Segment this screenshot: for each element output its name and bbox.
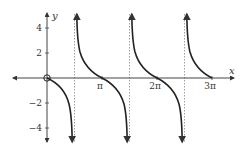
y-tick-label-4: 4 bbox=[36, 23, 42, 33]
y-tick-label-neg2: −2 bbox=[29, 98, 42, 108]
branch-0 bbox=[47, 78, 72, 142]
x-tick-label-3pi: 3π bbox=[204, 81, 216, 91]
y-axis-label: y bbox=[51, 10, 58, 21]
x-tick-label-pi: π bbox=[97, 81, 103, 91]
x-axis-label: x bbox=[229, 65, 235, 76]
branch-3 bbox=[187, 14, 212, 78]
tangent-plot: y x 4 2 −2 −4 π 2π 3π bbox=[0, 0, 245, 150]
y-tick-label-2: 2 bbox=[36, 48, 42, 58]
x-tick-label-2pi: 2π bbox=[149, 81, 161, 91]
y-tick-label-neg4: −4 bbox=[29, 123, 43, 133]
